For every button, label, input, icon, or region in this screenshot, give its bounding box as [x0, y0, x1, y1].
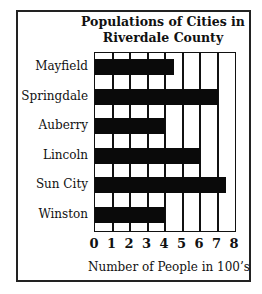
x-tick-label: 6 [192, 236, 206, 251]
x-tick-label: 7 [210, 236, 224, 251]
gridline [112, 53, 114, 231]
x-tick-label: 3 [140, 236, 154, 251]
bar-auberry [95, 118, 165, 134]
chart-title-line-1: Populations of Cities in [80, 14, 246, 30]
category-label: Mayfield [35, 59, 88, 73]
plot-area [94, 52, 236, 232]
category-label: Springdale [21, 89, 88, 103]
bar-lincoln [95, 148, 200, 164]
bar-springdale [95, 89, 218, 105]
bar-sun-city [95, 177, 226, 193]
category-label: Lincoln [43, 148, 88, 162]
gridline [199, 53, 201, 231]
x-tick-label: 4 [157, 236, 171, 251]
category-label: Auberry [39, 118, 88, 132]
gridline [217, 53, 219, 231]
category-label: Sun City [36, 177, 88, 191]
gridline [164, 53, 166, 231]
gridline [129, 53, 131, 231]
gridline [147, 53, 149, 231]
x-axis-label: Number of People in 100’s [88, 260, 250, 274]
chart-title: Populations of Cities in Riverdale Count… [80, 14, 246, 46]
bar-winston [95, 207, 165, 223]
x-tick-label: 1 [105, 236, 119, 251]
x-tick-label: 8 [227, 236, 241, 251]
x-tick-label: 2 [122, 236, 136, 251]
x-tick-label: 5 [175, 236, 189, 251]
gridline [182, 53, 184, 231]
bar-mayfield [95, 59, 174, 75]
chart-title-line-2: Riverdale County [80, 30, 246, 46]
category-label: Winston [38, 207, 88, 221]
x-tick-label: 0 [87, 236, 101, 251]
